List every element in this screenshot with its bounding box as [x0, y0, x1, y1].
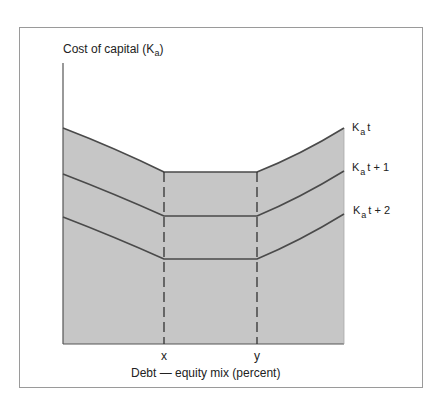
label-kat1-sub: a [360, 167, 365, 177]
label-kat-suffix: t [367, 121, 370, 133]
y-marker-label: y [254, 349, 260, 363]
shaded-area [63, 128, 344, 344]
label-kat2-suffix: t + 2 [368, 204, 390, 216]
label-kat1-suffix: t + 1 [367, 161, 389, 173]
label-kat: Kat [352, 121, 370, 133]
y-axis-label: Cost of capital (Ka) [63, 42, 163, 56]
label-kat1-main: K [352, 161, 359, 173]
label-kat-sub: a [360, 127, 365, 137]
label-kat-main: K [352, 121, 359, 133]
x-axis-label: Debt — equity mix (percent) [131, 366, 280, 380]
label-kat2-sub: a [361, 210, 366, 220]
label-kat-plus-2: Kat + 2 [353, 204, 390, 216]
y-axis-label-text: Cost of capital (K [63, 42, 154, 56]
label-kat2-main: K [353, 204, 360, 216]
y-axis-label-sub: a [154, 48, 159, 58]
x-marker-label: x [161, 349, 167, 363]
y-axis-label-suffix: ) [159, 42, 163, 56]
label-kat-plus-1: Kat + 1 [352, 161, 389, 173]
